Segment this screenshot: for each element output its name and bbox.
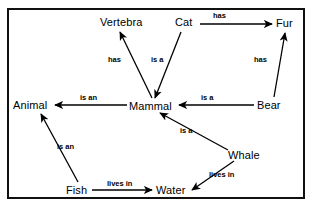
edge-label-fish-isan-animal: is an	[57, 142, 74, 151]
node-vertebra: Vertebra	[100, 16, 142, 29]
node-fur: Fur	[276, 17, 293, 30]
edge-label-mammal-isan-animal: is an	[80, 93, 97, 102]
node-mammal: Mammal	[129, 100, 172, 113]
edge-label-bear-has-fur: has	[254, 55, 267, 64]
edge-label-cat-has-fur: has	[213, 11, 226, 20]
edge-label-fish-livesin-water: lives in	[107, 179, 132, 188]
node-cat: Cat	[175, 16, 192, 29]
semantic-network-diagram: VertebraCatFurAnimalMammalBearWhaleFishW…	[0, 0, 313, 209]
edge-label-mammal-has-vertebra: has	[108, 55, 121, 64]
node-water: Water	[156, 184, 185, 197]
edge-label-bear-isa-mammal: is a	[201, 93, 214, 102]
node-bear: Bear	[257, 99, 281, 112]
node-fish: Fish	[66, 184, 87, 197]
node-animal: Animal	[13, 99, 47, 112]
node-whale: Whale	[228, 149, 260, 162]
edge-label-cat-isa-mammal: is a	[151, 55, 164, 64]
edge-label-whale-isa-mammal: is a	[180, 126, 193, 135]
edge-label-whale-livesin-water: lives in	[209, 170, 234, 179]
